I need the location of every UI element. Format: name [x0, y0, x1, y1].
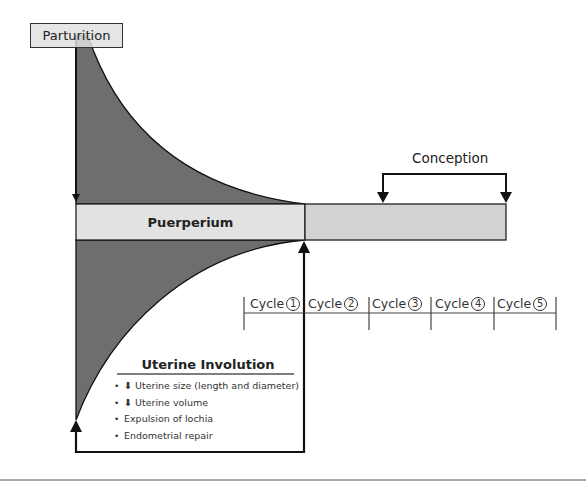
list-item: Expulsion of lochia [114, 411, 299, 428]
cycle-3: Cycle3 [372, 296, 422, 311]
cycle-number-badge: 5 [533, 297, 547, 311]
conception-label: Conception [412, 150, 488, 166]
cycle-4: Cycle4 [435, 296, 485, 311]
cycle-number-badge: 4 [471, 297, 485, 311]
cycle-1: Cycle1 [250, 296, 300, 311]
list-item: Endometrial repair [114, 428, 299, 445]
cycle-5: Cycle5 [497, 296, 547, 311]
involution-title: Uterine Involution [118, 357, 298, 372]
upper-involution-curve [76, 36, 305, 204]
cycle-number-badge: 1 [286, 297, 300, 311]
list-item: ⬇Uterine volume [114, 395, 299, 412]
down-arrow-icon: ⬇ [124, 397, 132, 408]
cycle-number-badge: 2 [344, 297, 358, 311]
cycle-2: Cycle2 [308, 296, 358, 311]
post-puerperium-band [305, 204, 506, 240]
puerperium-label: Puerperium [76, 205, 305, 240]
list-item: ⬇Uterine size (length and diameter) [114, 378, 299, 395]
cycle-number-badge: 3 [408, 297, 422, 311]
parturition-label: Parturition [30, 23, 123, 48]
down-arrow-icon: ⬇ [124, 380, 132, 391]
involution-list: ⬇Uterine size (length and diameter) ⬇Ute… [114, 378, 299, 444]
